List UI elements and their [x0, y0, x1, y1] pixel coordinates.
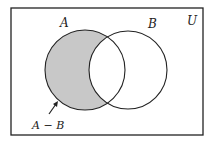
- set-a-label: A: [59, 16, 69, 30]
- venn-diagram: A B U A − B: [0, 0, 215, 141]
- universe-label: U: [187, 14, 198, 28]
- annotation-label: A − B: [31, 119, 64, 132]
- arrow-head-icon: [53, 101, 58, 107]
- set-b-label: B: [147, 17, 157, 31]
- annotation-arrow: [49, 101, 58, 114]
